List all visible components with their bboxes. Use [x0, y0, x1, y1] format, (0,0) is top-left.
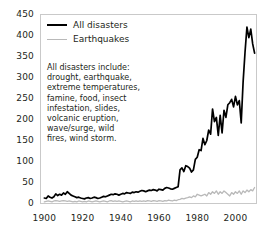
- y-tick-label: 300: [8, 73, 34, 82]
- y-tick-label: 350: [8, 52, 34, 61]
- legend-line-swatch-earthquakes: [47, 39, 67, 40]
- disasters-line-chart: 050100150200250300350400450 190019201940…: [0, 0, 268, 234]
- annotation-line: drought, earthquake,: [47, 73, 152, 83]
- y-tick-label: 50: [8, 178, 34, 187]
- y-tick-label: 450: [8, 10, 34, 19]
- x-tick-label: 1940: [106, 214, 136, 223]
- legend-item-all-disasters: All disasters: [47, 19, 157, 31]
- y-tick-label: 400: [8, 31, 34, 40]
- x-tick-label: 1960: [144, 214, 174, 223]
- y-tick-label: 150: [8, 136, 34, 145]
- legend-label-all-disasters: All disasters: [73, 20, 128, 30]
- legend-item-earthquakes: Earthquakes: [47, 33, 157, 45]
- annotation-line: fires, wind storm.: [47, 134, 152, 144]
- y-tick-label: 200: [8, 115, 34, 124]
- x-tick-label: 2000: [220, 214, 250, 223]
- annotation-line: famine, food, insect: [47, 94, 152, 104]
- annotation-line: wave/surge, wild: [47, 124, 152, 134]
- annotation-line: extreme temperatures,: [47, 83, 152, 93]
- annotation-line: All disasters include:: [47, 63, 152, 73]
- x-tick-label: 1980: [182, 214, 212, 223]
- y-tick-label: 250: [8, 94, 34, 103]
- chart-annotation-note: All disasters include: drought, earthqua…: [47, 63, 152, 145]
- legend-line-swatch-all-disasters: [47, 24, 67, 26]
- y-tick-label: 100: [8, 157, 34, 166]
- y-tick-label: 0: [8, 199, 34, 208]
- x-tick-label: 1900: [29, 214, 59, 223]
- legend-label-earthquakes: Earthquakes: [73, 34, 129, 44]
- annotation-line: infestation, slides,: [47, 104, 152, 114]
- chart-legend: All disasters Earthquakes: [47, 19, 157, 47]
- annotation-line: volcanic eruption,: [47, 114, 152, 124]
- x-tick-label: 1920: [68, 214, 98, 223]
